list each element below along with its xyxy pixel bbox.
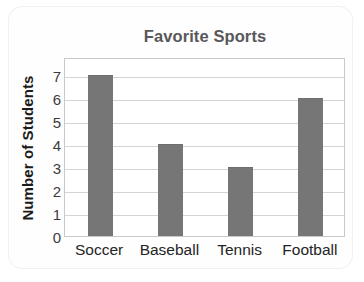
bar-baseball (158, 144, 183, 236)
x-tick-label-soccer: Soccer (75, 241, 123, 259)
bar-soccer (88, 75, 113, 236)
y-tick-label-5: 5 (44, 115, 61, 130)
x-tick-label-baseball: Baseball (140, 241, 199, 259)
bar-football (298, 98, 323, 236)
plot-area (64, 58, 345, 237)
bars-group (65, 59, 344, 236)
y-tick-label-1: 1 (44, 207, 61, 222)
chart-title: Favorite Sports (64, 27, 346, 46)
y-tick-label-3: 3 (44, 161, 61, 176)
y-axis-title: Number of Students (19, 75, 36, 220)
y-tick-label-7: 7 (44, 69, 61, 84)
y-tick-label-6: 6 (44, 92, 61, 107)
y-axis-tick-labels: 01234567 (44, 58, 61, 237)
y-axis-title-container: Number of Students (16, 58, 38, 238)
x-tick-label-tennis: Tennis (217, 241, 262, 259)
x-axis-tick-labels: SoccerBaseballTennisFootball (64, 241, 345, 265)
x-tick-label-football: Football (282, 241, 337, 259)
chart-screenshot: Favorite Sports Number of Students 01234… (0, 0, 364, 282)
bar-chart-figure: Favorite Sports Number of Students 01234… (0, 0, 364, 282)
y-tick-label-4: 4 (44, 138, 61, 153)
y-tick-label-2: 2 (44, 184, 61, 199)
bar-tennis (228, 167, 253, 236)
y-tick-label-0: 0 (44, 230, 61, 245)
